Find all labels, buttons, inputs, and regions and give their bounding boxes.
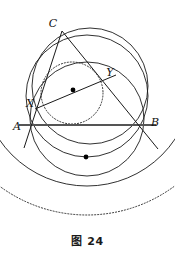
vertex-label-a: A bbox=[12, 120, 21, 133]
vertex-label-b: B bbox=[150, 116, 159, 129]
vertex-label-x: X bbox=[25, 97, 35, 110]
lower-arc-circle-1-circle bbox=[26, 35, 148, 157]
line-c-through-y-segment bbox=[62, 31, 158, 149]
line-x-to-y-segment bbox=[35, 75, 116, 109]
lower-arc-center-dot bbox=[84, 155, 89, 160]
figure-caption: 图 24 bbox=[0, 232, 175, 248]
vertex-label-y: Y bbox=[106, 66, 115, 79]
figure-container: C Y X A B 图 24 bbox=[0, 0, 175, 261]
incircle-center-dot bbox=[71, 88, 76, 93]
geometry-diagram: C Y X A B bbox=[0, 0, 175, 261]
vertex-label-c: C bbox=[49, 17, 58, 30]
line-c-through-x-segment bbox=[24, 31, 62, 148]
